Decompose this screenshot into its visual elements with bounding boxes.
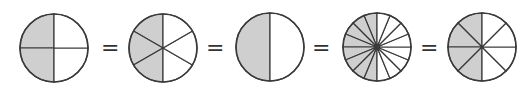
equals-sign: = [206,37,224,59]
fraction-circle-sixths [129,14,197,82]
fraction-circle-quarters [20,14,88,82]
equals-sign: = [312,37,330,59]
equals-sign: = [101,37,119,59]
shaded-slice [236,13,270,81]
unshaded-slice [270,13,304,81]
equals-sign: = [420,37,438,59]
fraction-circle-halves [236,13,304,81]
fraction-circle-eighths [448,13,516,81]
fraction-circle-sixteenths [343,13,411,81]
fraction-diagram [0,0,532,91]
